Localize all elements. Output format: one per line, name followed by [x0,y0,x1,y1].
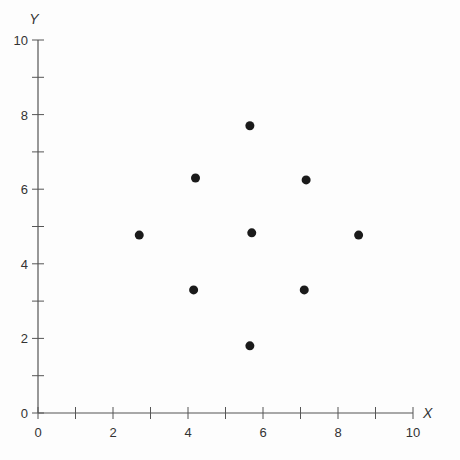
y-tick-label: 4 [21,257,28,272]
x-tick-label: 8 [334,425,341,440]
data-point [302,175,311,184]
axes: 02468100246810XY [14,11,433,440]
data-point [189,285,198,294]
data-point [245,341,254,350]
x-tick-label: 10 [406,425,420,440]
y-tick-label: 6 [21,182,28,197]
data-point [354,231,363,240]
data-point [245,121,254,130]
y-axis-label: Y [29,11,40,27]
x-axis-label: X [422,405,433,421]
data-point [300,285,309,294]
data-point [247,228,256,237]
data-points [135,121,363,350]
y-tick-label: 8 [21,108,28,123]
y-tick-label: 2 [21,331,28,346]
x-tick-label: 6 [259,425,266,440]
scatter-chart: 02468100246810XY [0,0,460,460]
data-point [135,231,144,240]
x-tick-label: 2 [109,425,116,440]
x-tick-label: 0 [34,425,41,440]
x-tick-label: 4 [184,425,191,440]
data-point [191,174,200,183]
y-tick-label: 0 [21,406,28,421]
y-tick-label: 10 [14,33,28,48]
